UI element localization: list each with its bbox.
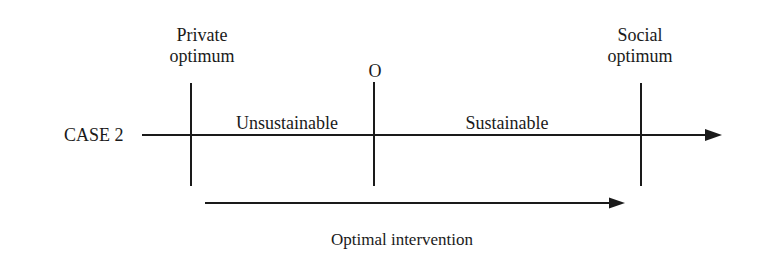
private-optimum-label: Private optimum [169, 25, 234, 67]
social-optimum-label-line2: optimum [607, 46, 672, 67]
optimal-intervention-label: Optimal intervention [331, 230, 473, 250]
sustainable-region-label: Sustainable [466, 113, 549, 133]
unsustainable-region-label: Unsustainable [236, 113, 338, 133]
private-optimum-label-line2: optimum [169, 46, 234, 67]
private-optimum-label-line1: Private [169, 25, 234, 46]
social-optimum-label-line1: Social [607, 25, 672, 46]
intervention-arrowhead-icon [609, 198, 625, 209]
o-label: O [369, 61, 382, 81]
main-axis-arrowhead-icon [705, 129, 722, 141]
case-label: CASE 2 [64, 125, 124, 145]
social-optimum-label: Social optimum [607, 25, 672, 67]
